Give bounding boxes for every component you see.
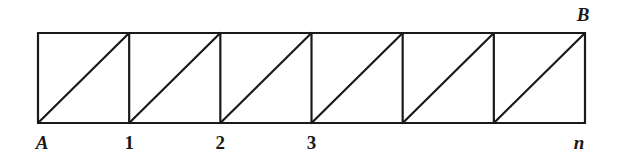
diagonal-edge	[312, 33, 403, 123]
node-label-b: B	[576, 4, 590, 25]
node-label-3: 3	[307, 132, 317, 153]
diagonal-edge	[403, 33, 494, 123]
diagonal-edge	[129, 33, 220, 123]
ladder-network-diagram: B A123n	[0, 0, 621, 159]
diagonal-edge	[494, 33, 585, 123]
diagonal-edge	[38, 33, 129, 123]
node-label-a: A	[35, 132, 49, 153]
diagonal-edge	[220, 33, 311, 123]
node-label-1: 1	[124, 132, 134, 153]
node-label-n: n	[574, 132, 585, 153]
network-edges	[38, 33, 585, 123]
node-label-2: 2	[216, 132, 226, 153]
